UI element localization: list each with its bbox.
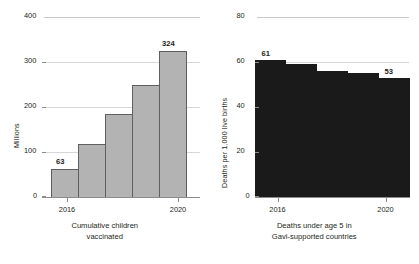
y-tick-mark-20 [255,152,259,153]
caption-line-1: Deaths under age 5 in [210,221,419,232]
value-label-last: 53 [385,67,393,76]
x-axis-baseline [42,197,200,198]
step-bar-2018 [317,71,348,197]
caption-line-2: vaccinated [0,232,210,243]
panel-deaths-under-age-5: 80 60 40 20 0 Deaths per 1,000 live birt… [210,0,419,264]
panel-caption: Deaths under age 5 in Gavi-supported cou… [210,221,419,242]
x-tick-2016 [67,198,68,202]
panel-cumulative-children-vaccinated: 400 300 200 100 0 Millions 63 324 [0,0,210,264]
step-bar-2017 [286,64,317,197]
step-bar-2017 [78,144,105,197]
value-label-first: 61 [262,49,270,58]
x-tick-label-2016: 2016 [266,205,290,214]
y-tick-mark-300 [42,62,46,63]
caption-line-1: Cumulative children [0,221,210,232]
y-tick-mark-200 [42,107,46,108]
step-bar-2019 [132,85,159,198]
step-bar-2018 [105,114,132,197]
y-tick-mark-0 [42,196,46,197]
x-tick-2020 [178,198,179,202]
value-label-first: 63 [56,157,64,166]
step-bar-2016 [51,169,78,197]
y-tick-mark-40 [255,107,259,108]
x-tick-2016 [278,198,279,202]
two-panel-figure: 400 300 200 100 0 Millions 63 324 [0,0,419,264]
y-tick-mark-0 [255,196,259,197]
y-tick-mark-60 [255,62,259,63]
x-tick-2020 [386,198,387,202]
x-tick-label-2016: 2016 [55,205,79,214]
step-bar-2020 [379,78,410,197]
step-bar-2016 [255,60,286,197]
value-label-last: 324 [162,39,175,48]
step-bar-2019 [348,73,379,197]
panel-caption: Cumulative children vaccinated [0,221,210,242]
y-tick-mark-100 [42,152,46,153]
x-tick-label-2020: 2020 [166,205,190,214]
caption-line-2: Gavi-supported countries [210,232,419,243]
step-bar-2020 [159,51,187,197]
x-tick-label-2020: 2020 [374,205,398,214]
